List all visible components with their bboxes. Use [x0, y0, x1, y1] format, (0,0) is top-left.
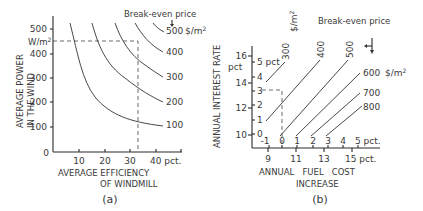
x-tick-10: 10: [73, 156, 85, 166]
x-ticks-outer-b: [268, 148, 352, 152]
panel-b: 16 pct 14 12 10 5 pct 4 3 2 1 0 ANNUAL I…: [212, 10, 407, 206]
x-tick-13: 13: [318, 154, 329, 164]
y-tick-14: 14: [236, 78, 248, 88]
y-tick-400: 400: [30, 49, 47, 59]
left-down-arrow-icon: [364, 38, 374, 54]
x-axis-label-b-line1: ANNUAL FUEL COST: [259, 167, 356, 177]
curve-label-400: 400: [166, 47, 183, 57]
y-tick-500: 500: [30, 24, 47, 34]
x-tick-inner-3: 3: [325, 136, 331, 146]
panel-a: 500 W/m2 400 300 200 100 0 AVERAGE POWER…: [15, 9, 207, 206]
curve-300: [115, 23, 163, 77]
y-tick-inner-2: 2: [257, 100, 263, 110]
line-label-700: 700: [363, 88, 380, 98]
y-tick-10: 10: [236, 130, 248, 140]
x-tick-inner-1: 1: [294, 136, 300, 146]
x-tick-inner-2: 2: [310, 136, 316, 146]
legend-title-b: Break-even price: [318, 16, 390, 26]
x-tick-inner-4: 4: [340, 136, 346, 146]
y-tick-inner-3: 3: [257, 86, 263, 96]
y-ticks-outer-b: [248, 56, 252, 135]
y-axis-label-line1: AVERAGE POWER: [15, 54, 25, 128]
y-axis-label-line2: IN THE WIND: [26, 73, 36, 128]
unit-label-b-rotated: $/m2: [288, 10, 299, 32]
curve-100: [70, 23, 163, 126]
unit-label-b: $/m2: [385, 67, 407, 78]
y-tick-inner-5: 5 pct: [257, 57, 280, 67]
curve-label-200: 200: [166, 97, 183, 107]
x-tick-40: 40 pct.: [150, 156, 181, 166]
legend-title-a: Break-even price: [124, 9, 196, 19]
unit-label-a: $/m2: [185, 25, 207, 36]
x-tick-11: 11: [290, 154, 301, 164]
curve-label-100: 100: [166, 120, 183, 130]
y-tick-16: 16: [236, 51, 248, 61]
line-label-300: 300: [281, 43, 291, 60]
line-700: [326, 106, 362, 136]
line-400: [280, 60, 348, 136]
curve-500: [153, 23, 164, 32]
dashed-reference-a: [53, 41, 138, 152]
x-tick-inner-neg1: -1: [261, 136, 270, 146]
caption-b: (b): [312, 193, 328, 206]
x-axis-label-line1: AVERAGE EFFICIENCY: [58, 168, 150, 178]
y-unit-label-b: pct: [228, 62, 243, 72]
y-tick-0: 0: [43, 148, 49, 158]
x-axis-label-line2: OF WINDMILL: [100, 179, 158, 189]
line-400-upper: [266, 60, 320, 121]
curve-400: [135, 23, 163, 52]
x-tick-inner-5: 5 pct.: [355, 136, 381, 146]
y-unit-label: W/m2: [28, 36, 52, 47]
y-tick-inner-1: 1: [257, 115, 263, 125]
curve-200: [92, 23, 163, 102]
line-label-500: 500: [345, 41, 355, 58]
x-tick-9: 9: [265, 154, 271, 164]
y-tick-12: 12: [236, 103, 247, 113]
x-axis-label-b-line2: INCREASE: [296, 179, 339, 189]
x-tick-15: 15 pct.: [345, 154, 376, 164]
y-axis-label-b: ANNUAL INTEREST RATE: [212, 45, 222, 148]
curve-label-300: 300: [166, 72, 183, 82]
curve-label-500: 500: [166, 26, 183, 36]
x-tick-20: 20: [99, 156, 111, 166]
line-label-400: 400: [316, 41, 326, 58]
x-tick-30: 30: [124, 156, 136, 166]
figure: 500 W/m2 400 300 200 100 0 AVERAGE POWER…: [0, 0, 423, 211]
y-tick-inner-4: 4: [257, 72, 263, 82]
line-label-600: 600: [363, 68, 380, 78]
line-label-800: 800: [363, 102, 380, 112]
caption-a: (a): [102, 193, 117, 206]
